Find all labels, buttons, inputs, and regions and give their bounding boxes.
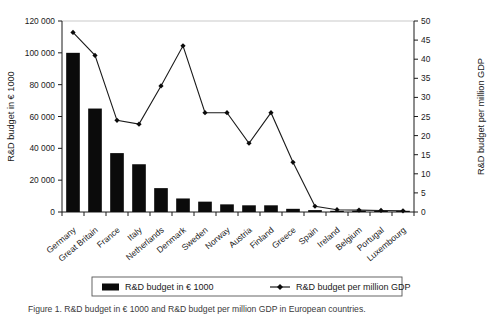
left-axis-tick-label: 0 — [50, 207, 55, 217]
line-marker — [114, 118, 119, 123]
right-axis-tick-label: 50 — [421, 16, 431, 26]
bar — [242, 205, 256, 212]
x-axis-category-label: France — [95, 225, 122, 250]
legend-label-bar: R&D budget in € 1000 — [125, 282, 214, 292]
left-axis-tick-label: 60 000 — [29, 112, 55, 122]
right-axis-tick-label: 45 — [421, 35, 431, 45]
line-marker — [290, 160, 295, 165]
left-axis-tick-label: 20 000 — [29, 175, 55, 185]
figure-caption: Figure 1. R&D budget in € 1000 and R&D b… — [28, 303, 488, 314]
right-axis-tick-label: 20 — [421, 131, 431, 141]
right-axis-tick-label: 25 — [421, 112, 431, 122]
right-axis-tick-label: 40 — [421, 54, 431, 64]
line-marker — [202, 110, 207, 115]
left-axis-tick-label: 100 000 — [25, 48, 56, 58]
right-axis-tick-label: 15 — [421, 150, 431, 160]
line-marker — [400, 208, 405, 213]
right-axis-title: R&D budget per million GDP — [476, 58, 486, 175]
bar — [88, 109, 102, 212]
chart-figure: 020 00040 00060 00080 000100 000120 000R… — [0, 0, 495, 314]
right-axis-tick-label: 10 — [421, 169, 431, 179]
line-marker — [312, 204, 317, 209]
rd-budget-combo-chart: 020 00040 00060 00080 000100 000120 000R… — [0, 0, 495, 314]
bar — [132, 164, 146, 212]
x-axis-category-label: Norway — [203, 224, 232, 251]
bar — [308, 210, 322, 212]
right-axis-tick-label: 0 — [421, 207, 426, 217]
bar — [286, 209, 300, 212]
legend-swatch-line-marker — [277, 284, 283, 290]
bar — [154, 188, 168, 212]
left-axis-title: R&D budget in € 1000 — [6, 71, 16, 161]
bar — [66, 53, 80, 212]
right-axis-tick-label: 5 — [421, 188, 426, 198]
right-axis-tick-label: 30 — [421, 92, 431, 102]
left-axis-tick-label: 80 000 — [29, 80, 55, 90]
line-marker — [180, 43, 185, 48]
left-axis-tick-label: 40 000 — [29, 143, 55, 153]
bar — [220, 204, 234, 212]
line-marker — [136, 122, 141, 127]
bar — [110, 153, 124, 212]
bar — [198, 202, 212, 212]
x-axis-category-label: Greece — [270, 225, 298, 251]
legend-label-line: R&D budget per million GDP — [296, 282, 411, 292]
line-marker — [158, 83, 163, 88]
left-axis-tick-label: 120 000 — [25, 16, 56, 26]
bar — [176, 198, 190, 212]
right-axis-tick-label: 35 — [421, 73, 431, 83]
bar — [264, 205, 278, 212]
legend-swatch-bar — [102, 284, 119, 291]
